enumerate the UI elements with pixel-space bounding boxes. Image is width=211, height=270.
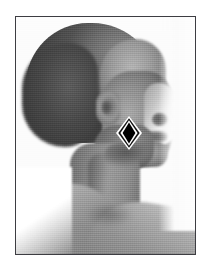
diamond-marker-icon <box>116 116 142 150</box>
background-field-top <box>16 17 195 31</box>
occiput-region <box>22 43 98 147</box>
lips-region <box>144 131 168 143</box>
sternocleidomastoid-shadow <box>88 153 114 223</box>
film-grain-overlay <box>16 17 195 254</box>
nostril-shadow <box>152 113 168 126</box>
background-field-right <box>160 17 195 231</box>
shoulder-right-region <box>83 194 195 254</box>
nose-profile-region <box>144 83 178 145</box>
ear-canal-shadow <box>102 101 111 114</box>
clavicle-hollow-shadow <box>82 203 136 233</box>
figure-root <box>0 0 211 270</box>
neck-region <box>70 143 140 225</box>
forehead-region <box>100 39 166 121</box>
photo-frame <box>15 16 196 255</box>
background-wedge-left <box>16 167 72 254</box>
photograph-image <box>16 17 195 254</box>
shoulder-left-region <box>16 178 127 254</box>
